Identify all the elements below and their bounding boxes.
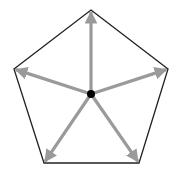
arrow-to-bottom-right [91, 94, 138, 161]
arrow-to-left [16, 70, 91, 94]
vector-arrows [16, 12, 166, 161]
arrow-to-bottom-left [45, 94, 91, 161]
center-point [87, 90, 95, 98]
arrow-to-right [91, 70, 166, 94]
pentagon-vector-diagram [0, 0, 177, 172]
